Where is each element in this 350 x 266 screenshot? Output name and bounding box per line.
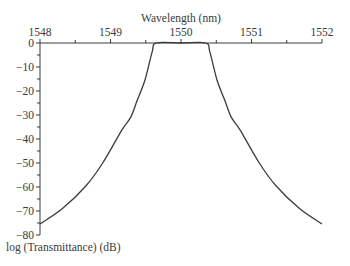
transmittance-curve — [40, 42, 322, 224]
x-tick-label: 1551 — [240, 26, 263, 38]
x-axis-title: Wavelength (nm) — [141, 12, 221, 25]
y-tick-label: −80 — [16, 229, 34, 241]
y-tick-label: −10 — [16, 61, 34, 73]
y-tick-label: −60 — [16, 181, 34, 193]
x-tick-label: 1550 — [170, 26, 193, 38]
axes — [36, 39, 322, 235]
transmittance-chart: Wavelength (nm) 15481549155015511552 0−1… — [0, 0, 350, 266]
x-tick-label: 1552 — [311, 26, 334, 38]
y-tick-label: −20 — [16, 85, 34, 97]
y-tick-label: −70 — [16, 205, 34, 217]
y-axis-title: log (Transmittance) (dB) — [6, 241, 121, 253]
y-tick-label: −30 — [16, 109, 34, 121]
y-tick-label: −40 — [16, 133, 34, 145]
y-tick-label: −50 — [16, 157, 34, 169]
x-tick-labels: 15481549155015511552 — [29, 26, 334, 38]
x-tick-label: 1549 — [99, 26, 122, 38]
y-tick-labels: 0−10−20−30−40−50−60−70−80 — [16, 37, 34, 241]
y-tick-label: 0 — [28, 37, 34, 49]
